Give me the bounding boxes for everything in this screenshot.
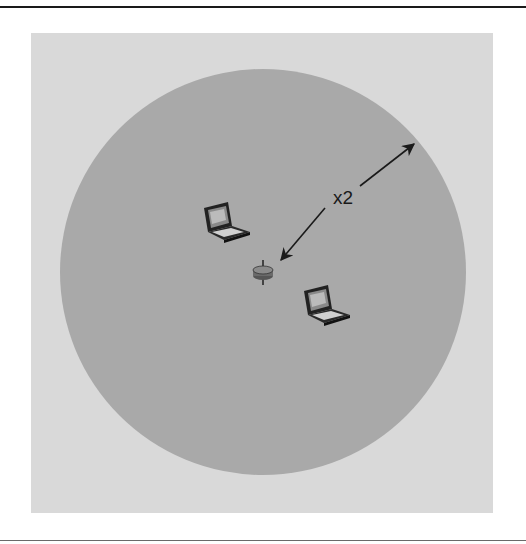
bottom-border-rule [0, 540, 526, 541]
radius-label: x2 [333, 187, 353, 209]
coverage-diagram [0, 0, 526, 544]
